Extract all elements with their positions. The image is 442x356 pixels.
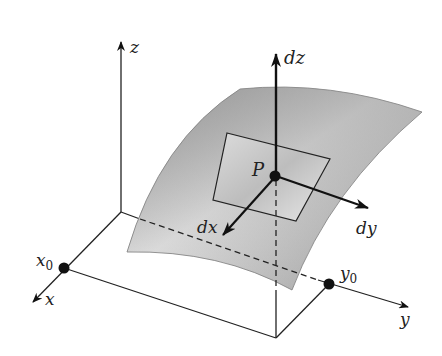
z-axis-label: z: [129, 37, 140, 57]
point-p: [270, 171, 281, 182]
y0-label: y0: [339, 263, 357, 286]
point-y0: [324, 279, 335, 290]
dz-label: dz: [284, 47, 306, 68]
y-axis-label: y: [399, 309, 410, 329]
y-axis-near: [121, 212, 140, 219]
point-x0: [59, 263, 70, 274]
x-axis-label: x: [45, 289, 55, 309]
dx-label: dx: [197, 217, 218, 237]
dy-label: dy: [356, 218, 377, 238]
base-line-y0: [276, 284, 329, 338]
base-line-x0: [64, 268, 276, 338]
x0-label: x0: [36, 250, 53, 273]
point-p-label: P: [251, 159, 265, 180]
surface-diagram: z dz P dx dy x0 x y0 y: [0, 0, 442, 356]
